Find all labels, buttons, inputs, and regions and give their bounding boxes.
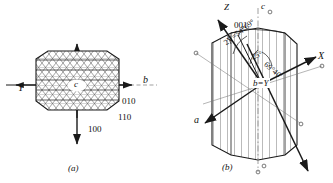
axis-label-X: X <box>318 50 324 61</box>
axis-label-b: b <box>143 74 148 85</box>
figure-canvas <box>0 0 333 183</box>
panel-b <box>194 8 324 174</box>
axis-label-a: a <box>194 114 199 125</box>
panel-b-caption: (b) <box>222 162 233 172</box>
panel-a-caption: (a) <box>68 163 79 173</box>
panel-a <box>6 44 157 144</box>
panel-a-center-label: c <box>74 79 78 89</box>
face-label-100: 100 <box>88 124 102 134</box>
face-label-110: 110 <box>118 112 131 122</box>
axis-label-Z: Z <box>224 2 229 12</box>
axis-label-c: c <box>261 1 265 11</box>
crystal-prism-outline <box>212 28 297 160</box>
face-label-010: 010 <box>122 96 136 106</box>
axis-label-Y: Y <box>18 82 24 93</box>
crystal-orientation-figure: b Y c 010 110 100 (a) Z X a c 001 b=Y 2V… <box>0 0 333 183</box>
panel-b-center-label: b=Y <box>252 78 270 88</box>
